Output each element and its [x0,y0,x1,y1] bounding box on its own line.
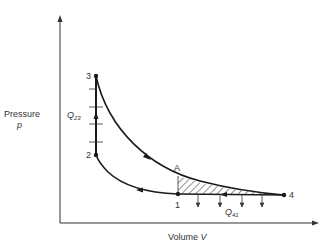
point-3 [94,74,98,78]
y-axis-arrow-icon [58,15,63,22]
process-2-3 [89,76,103,155]
label-point-4: 4 [289,190,294,200]
process-3-4 [96,76,284,195]
y-axis-label: Pressure [4,109,40,119]
process-4-1 [178,192,284,207]
x-axis-arrow-icon [312,221,319,226]
arrow-up-icon [94,112,99,119]
x-axis-label: Volume V [168,232,207,242]
label-point-3: 3 [86,71,91,81]
label-point-1: 1 [175,200,180,210]
heat-rejection-arrows [196,194,263,207]
pv-diagram [0,0,336,250]
point-2 [94,153,98,157]
point-4 [282,193,286,197]
point-1 [176,192,180,196]
y-axis-symbol: p [17,120,22,130]
heat-label-q41: Q41 [225,207,239,220]
process-1-2 [96,155,178,194]
label-point-2: 2 [86,150,91,160]
heat-label-q23: Q23 [67,110,81,123]
label-point-a: A [174,163,180,173]
